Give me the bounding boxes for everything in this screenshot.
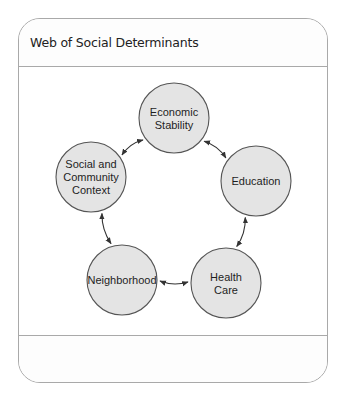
arrow-social-and-community-context-to-economic-stability: [122, 140, 143, 155]
node-education: Education: [221, 146, 291, 216]
node-label: Economic: [150, 106, 199, 118]
social-determinants-web: EconomicStabilityEducationHealthCareNeig…: [0, 0, 344, 404]
nodes-group: EconomicStabilityEducationHealthCareNeig…: [56, 83, 291, 318]
node-neighborhood: Neighborhood: [87, 245, 157, 315]
node-label: Care: [214, 284, 238, 296]
arrow-health-care-to-neighborhood: [160, 281, 188, 284]
node-economic-stability: EconomicStability: [139, 83, 209, 153]
node-label: Neighborhood: [87, 274, 156, 286]
node-label: Education: [232, 175, 281, 187]
node-label: Stability: [155, 119, 194, 131]
arrow-neighborhood-to-social-and-community-context: [102, 213, 111, 243]
arrow-education-to-health-care: [237, 217, 246, 246]
node-health-care: HealthCare: [191, 248, 261, 318]
node-label: Health: [210, 271, 242, 283]
arrow-economic-stability-to-education: [204, 141, 226, 158]
node-social-and-community-context: Social andCommunityContext: [56, 142, 126, 212]
node-label: Context: [72, 184, 110, 196]
node-label: Social and: [65, 158, 116, 170]
node-label: Community: [63, 171, 119, 183]
